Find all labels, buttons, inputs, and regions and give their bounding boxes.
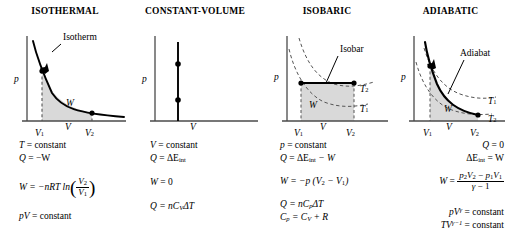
curve-label-leader [448,60,464,94]
thermodynamic-processes-diagram: ISOTHERMAL Is [0,0,509,234]
graph-constant-volume: p V [128,22,262,130]
state-point-1 [39,68,44,73]
graph-isothermal: Isotherm p W V1 V V2 [0,22,130,130]
curve-label-isobar: Isobar [340,44,364,54]
panel-title-constant-volume: CONSTANT-VOLUME [128,6,262,16]
curve-label-leader [326,56,338,83]
x-tick-v: V [65,122,71,132]
y-axis-label: p [274,72,279,82]
state-point-2 [175,97,181,103]
curve-label-adiabat: Adiabat [460,48,490,58]
state-point-1 [427,63,432,68]
x-tick-v: V [446,122,452,132]
panel-constant-volume: CONSTANT-VOLUME p V V = constant Q = ΔEi… [128,0,262,234]
equation-w-fraction: W = p2V2 − p1V1γ − 1 [392,166,504,195]
graph-isobaric: Isobar p W T2 T1 V1 V V2 [262,22,392,130]
isotherm-label-t1: T1 [488,90,497,108]
work-area-shading [42,71,92,121]
equation-q: Q = −W [19,153,95,166]
x-tick-v: V [320,122,326,132]
isotherm-label-t1: T1 [360,98,369,116]
equation-deltae-w: ΔEint = W [392,153,504,166]
equation-w: W = −nRT ln(V2V1) [19,171,95,199]
panel-adiabatic: ADIABATIC [392,0,509,234]
y-axis-label: p [401,72,406,82]
curve-label-leader [52,44,61,52]
equations-adiabatic: Q = 0 ΔEint = W W = p2V2 − p1V1γ − 1 pVγ… [392,136,509,232]
work-label: W [66,98,74,108]
equation-q-zero: Q = 0 [392,140,504,153]
equation-pv-gamma: pVγ = constant [392,206,504,219]
equation-q-first-law: Q = ΔEint − W [280,153,348,166]
y-axis-label: p [142,74,147,84]
work-label: W [309,100,317,110]
equation-pv: pV = constant [19,211,95,224]
equation-p-constant: p = constant [280,140,348,153]
equations-constant-volume: V = constant Q = ΔEint W = 0 Q = nCVΔT [128,136,262,232]
equation-q-ncv: Q = nCVΔT [150,201,198,214]
work-label: W [444,104,452,114]
state-point-2 [89,110,94,115]
state-point-2 [475,112,480,117]
equation-w-pdv: W = −p (V2 − V1) [280,176,348,189]
equation-q-deltae: Q = ΔEint [150,153,198,166]
isotherm-label-t2: T2 [488,108,497,126]
state-point-1 [298,80,303,85]
panel-isothermal: ISOTHERMAL Is [0,0,130,234]
graph-adiabatic: Adiabat p W T1 T2 V1 V V2 [392,22,509,130]
equation-w-zero: W = 0 [150,177,198,190]
isotherm-label-t2: T2 [360,78,369,96]
panel-isobaric: ISOBARIC Is [262,0,392,234]
equations-isothermal: T = constant Q = −W W = −nRT ln(V2V1) pV… [0,136,130,232]
equation-cp-cv-r: Cp = CV + R [280,212,348,225]
equation-t-constant: T = constant [19,140,95,153]
state-point-2 [351,80,356,85]
y-axis-label: p [14,74,19,84]
equation-q-ncp: Q = nCpΔT [280,199,348,212]
panel-title-isothermal: ISOTHERMAL [0,6,130,16]
x-axis-label: V [190,122,196,132]
equations-isobaric: p = constant Q = ΔEint − W W = −p (V2 − … [262,136,392,232]
panel-title-adiabatic: ADIABATIC [392,6,509,16]
equation-v-constant: V = constant [150,140,198,153]
panel-title-isobaric: ISOBARIC [262,6,392,16]
state-point-1 [175,61,181,67]
curve-label-isotherm: Isotherm [63,32,97,42]
equation-tv-gamma: TVγ−1 = constant [392,219,504,232]
